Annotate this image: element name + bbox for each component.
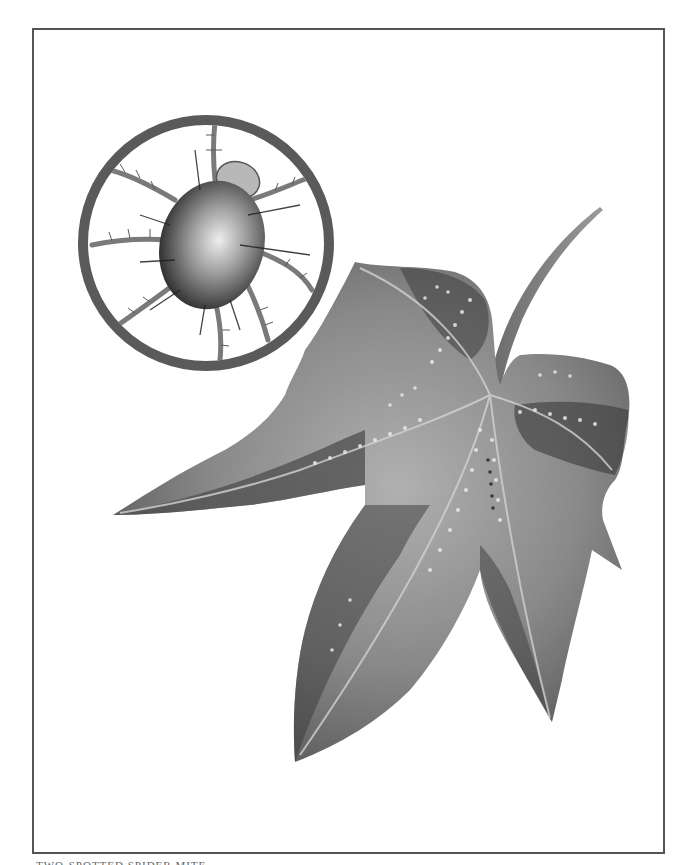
figure-caption: TWO-SPOTTED SPIDER MITE	[36, 859, 206, 865]
cotton-leaf-illustration	[0, 0, 693, 865]
